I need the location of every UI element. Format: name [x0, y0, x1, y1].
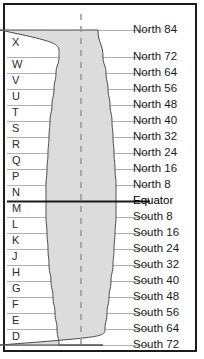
band-letter: W	[12, 59, 22, 70]
latitude-label: South 40	[133, 275, 179, 287]
band-letter: V	[12, 75, 19, 86]
band-letter: T	[12, 107, 19, 118]
band-letter: Q	[12, 155, 21, 166]
latitude-label: North 24	[133, 147, 177, 159]
latitude-label: South 16	[133, 227, 179, 239]
band-letter: N	[12, 187, 20, 198]
band-letter: F	[12, 299, 19, 310]
band-letter: G	[12, 283, 21, 294]
band-letter: H	[12, 267, 20, 278]
latitude-label: North 8	[133, 179, 171, 191]
band-letter: P	[12, 171, 19, 182]
latitude-label: South 8	[133, 211, 173, 223]
band-letter: R	[12, 139, 20, 150]
band-letter: M	[12, 203, 21, 214]
latitude-label: North 72	[133, 51, 177, 63]
latitude-label: South 64	[133, 323, 179, 335]
latitude-label: South 72	[133, 339, 179, 351]
latitude-label: South 56	[133, 307, 179, 319]
band-letter: X	[12, 37, 19, 48]
latitude-label: South 48	[133, 291, 179, 303]
latitude-label: North 56	[133, 83, 177, 95]
band-letter: K	[12, 235, 19, 246]
latitude-label: North 40	[133, 115, 177, 127]
band-letter: L	[12, 219, 18, 230]
latitude-label: North 64	[133, 67, 177, 79]
band-letter: D	[12, 331, 20, 342]
band-letter: E	[12, 315, 19, 326]
latitude-label: North 32	[133, 131, 177, 143]
band-letter: S	[12, 123, 19, 134]
latitude-label: South 24	[133, 243, 179, 255]
latitude-label: North 16	[133, 163, 177, 175]
utm-latitude-band-diagram: XWVUTSRQPNMLKJHGFED North 84North 72Nort…	[0, 0, 204, 359]
latitude-label: Equator	[133, 195, 173, 207]
latitude-label: North 84	[133, 24, 177, 36]
latitude-label: North 48	[133, 99, 177, 111]
band-letter: U	[12, 91, 20, 102]
band-letter: J	[12, 251, 18, 262]
latitude-label: South 32	[133, 259, 179, 271]
